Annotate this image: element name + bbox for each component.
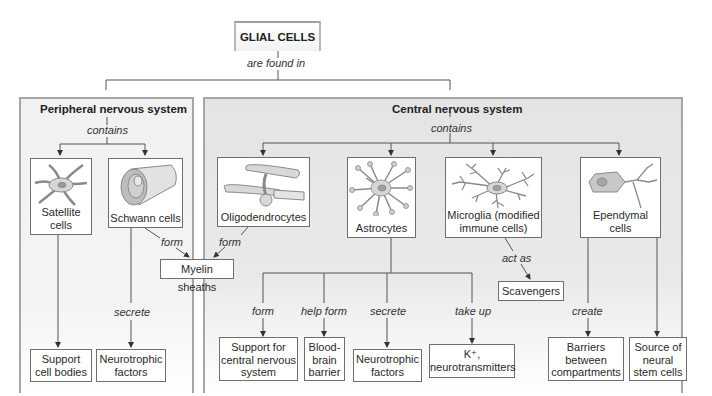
astrocyte-relation-form: form — [252, 305, 274, 317]
support-cell-bodies-node: Support cell bodies — [30, 349, 92, 382]
oligodendrocyte-relation-form: form — [219, 236, 241, 248]
schwann-cells-node: Schwann cells — [108, 158, 183, 228]
ependymal-cells-node: Ependymal cells — [580, 157, 661, 238]
satellite-cells-label: Satellite cells — [31, 206, 91, 231]
blood-brain-barrier-node: Blood- brain barrier — [304, 337, 345, 381]
astrocyte-relation-secrete: secrete — [370, 305, 406, 317]
glial-cells-root: GLIAL CELLS — [234, 21, 321, 51]
barriers-between-compartments-node: Barriers between compartments — [548, 337, 624, 381]
astrocyte-relation-help-form: help form — [301, 305, 347, 317]
satellite-cell-icon — [31, 161, 91, 209]
ependymal-relation-create: create — [572, 305, 603, 317]
cns-neurotrophic-factors-node: Neurotrophic factors — [353, 349, 422, 382]
support-for-cns-node: Support for central nervous system — [219, 337, 298, 381]
myelin-sheaths-node: Myelin sheaths — [160, 259, 234, 279]
ependymal-cell-icon — [581, 160, 660, 212]
schwann-relation-secrete: secrete — [114, 306, 150, 318]
scavengers-node: Scavengers — [498, 281, 564, 301]
cns-relation-contains: contains — [431, 122, 472, 134]
source-of-neural-stem-cells-node: Source of neural stem cells — [629, 337, 687, 381]
astrocytes-node: Astrocytes — [347, 157, 416, 238]
pns-title: Peripheral nervous system — [40, 103, 187, 115]
schwann-cells-label: Schwann cells — [109, 212, 182, 225]
ependymal-cells-label: Ependymal cells — [581, 209, 660, 234]
pns-neurotrophic-factors-node: Neurotrophic factors — [96, 349, 166, 382]
schwann-relation-form: form — [161, 236, 183, 248]
oligodendrocytes-node: Oligodendrocytes — [217, 157, 310, 227]
satellite-cells-node: Satellite cells — [30, 158, 92, 235]
microglia-node: Microglia (modified immune cells) — [445, 157, 542, 238]
schwann-cell-icon — [109, 161, 182, 211]
oligodendrocyte-icon — [218, 160, 309, 210]
astrocyte-relation-take-up: take up — [455, 305, 491, 317]
oligodendrocytes-label: Oligodendrocytes — [218, 211, 309, 224]
astrocytes-label: Astrocytes — [348, 222, 415, 235]
pns-relation-contains: contains — [87, 124, 128, 136]
microglia-relation-act-as: act as — [502, 252, 531, 264]
microglia-icon — [446, 160, 541, 212]
cns-title: Central nervous system — [392, 103, 522, 115]
k-neurotransmitters-node: K⁺, neurotransmitters — [429, 344, 515, 378]
relation-are-found-in: are found in — [247, 57, 305, 69]
astrocyte-icon — [348, 160, 415, 216]
microglia-label: Microglia (modified immune cells) — [446, 209, 541, 234]
